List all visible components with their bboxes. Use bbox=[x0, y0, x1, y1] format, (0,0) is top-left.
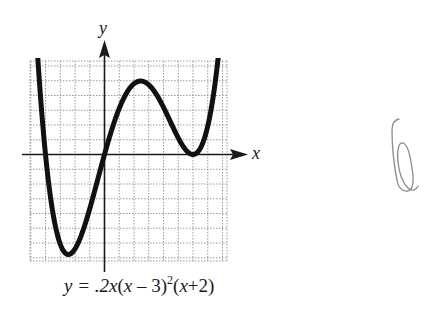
eq-term: +2) bbox=[188, 275, 215, 296]
x-axis-label: x bbox=[252, 143, 260, 164]
y-axis-label: y bbox=[99, 18, 107, 39]
equation-caption: y = .2x(x – 3)2(x+2) bbox=[64, 273, 214, 297]
equation-prefix: y = .2 bbox=[64, 275, 109, 296]
function-curve bbox=[28, 0, 227, 254]
eq-term: – 3) bbox=[132, 275, 167, 296]
eq-var: x bbox=[179, 275, 187, 296]
eq-var: x bbox=[124, 275, 132, 296]
handwritten-mark-6 bbox=[370, 110, 430, 200]
